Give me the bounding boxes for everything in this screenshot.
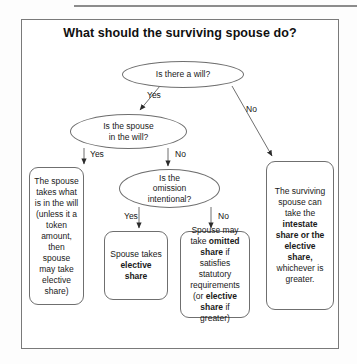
edge-label-omission-yes: Yes: [124, 211, 138, 221]
edge-label-in-will-yes: Yes: [90, 149, 104, 159]
outcome-omitted-share[interactable]: Spouse may take omitted share if satisfi…: [180, 231, 250, 318]
page-top-rule: [74, 5, 357, 7]
outcome-elective-share[interactable]: Spouse takes elective share: [104, 231, 168, 300]
diagram-page: What should the surviving spouse do? Is …: [0, 0, 357, 364]
decision-is-there-a-will-label: Is there a will?: [123, 69, 243, 80]
decision-is-omission-intentional-label: Is theomissionintentional?: [120, 173, 219, 205]
decision-is-there-a-will[interactable]: Is there a will?: [122, 61, 244, 88]
edge-label-will-no: No: [246, 104, 257, 114]
outcome-intestate-or-elective-label: The surviving spouse can take the intest…: [271, 186, 329, 285]
outcome-takes-what-is-in-will-label: The spouse takes what is in the will (un…: [34, 176, 79, 297]
edge-label-omission-no: No: [218, 211, 229, 221]
decision-is-omission-intentional[interactable]: Is theomissionintentional?: [119, 169, 220, 208]
outcome-intestate-or-elective[interactable]: The surviving spouse can take the intest…: [266, 161, 334, 310]
outcome-takes-what-is-in-will[interactable]: The spouse takes what is in the will (un…: [29, 167, 84, 305]
outcome-elective-share-label: Spouse takes elective share: [109, 249, 163, 282]
page-title: What should the surviving spouse do?: [21, 26, 339, 40]
edge-label-will-yes: Yes: [147, 90, 161, 100]
edge-label-in-will-no: No: [175, 149, 186, 159]
outcome-omitted-share-label: Spouse may take omitted share if satisfi…: [185, 225, 245, 324]
decision-is-spouse-in-will[interactable]: Is the spousein the will?: [70, 114, 187, 149]
decision-is-spouse-in-will-label: Is the spousein the will?: [71, 121, 186, 142]
